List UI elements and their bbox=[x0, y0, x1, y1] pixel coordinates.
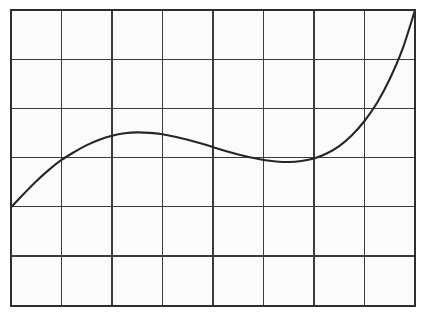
screenshot-root bbox=[0, 0, 427, 316]
line-chart-svg bbox=[0, 0, 427, 316]
chart-figure bbox=[0, 0, 427, 316]
